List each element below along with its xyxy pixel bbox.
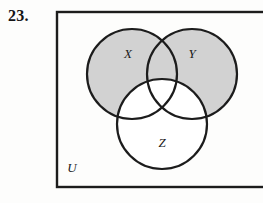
- set-label-x: X: [123, 46, 133, 61]
- universe-label-u: U: [67, 160, 78, 175]
- venn-canvas: X Y Z U: [0, 0, 263, 203]
- venn-figure: 23. X Y Z U: [0, 0, 263, 203]
- venn-diagram-svg: X Y Z U: [0, 0, 263, 203]
- set-label-z: Z: [158, 135, 166, 150]
